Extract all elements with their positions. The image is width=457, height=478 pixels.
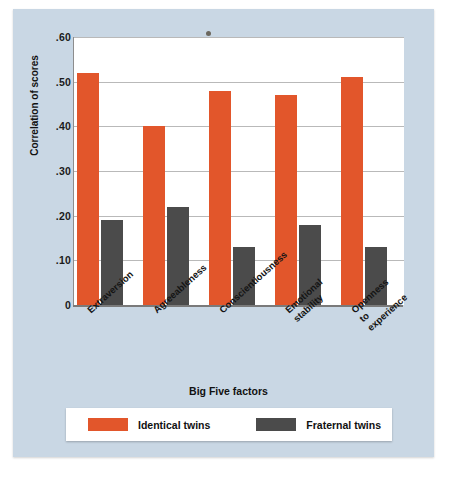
legend-swatch-icon xyxy=(256,418,296,431)
legend-label: Identical twins xyxy=(138,419,210,431)
legend-swatch-icon xyxy=(88,418,128,431)
bar xyxy=(209,91,231,305)
bars-layer xyxy=(73,37,403,305)
y-axis-tick-label: .60 xyxy=(37,31,71,43)
y-axis-tick-label: .20 xyxy=(37,210,71,222)
bar xyxy=(77,73,99,305)
bar xyxy=(143,126,165,305)
y-axis-tick-label: .40 xyxy=(37,120,71,132)
bar-group xyxy=(337,37,403,305)
y-axis-tick-label: 0 xyxy=(37,299,71,311)
scan-speck-icon xyxy=(206,31,211,36)
legend-entry[interactable]: Fraternal twins xyxy=(256,418,381,431)
bar-group xyxy=(139,37,205,305)
x-axis-title: Big Five factors xyxy=(0,385,457,397)
bar xyxy=(341,77,363,305)
x-axis-labels: ExtraversionAgreeablenessConscientiousne… xyxy=(73,307,413,397)
legend-label: Fraternal twins xyxy=(306,419,381,431)
chart-page: Correlation of scores .60.50.40.30.20.10… xyxy=(0,0,457,478)
y-axis-tick-label: .30 xyxy=(37,165,71,177)
legend-entry[interactable]: Identical twins xyxy=(88,418,210,431)
y-axis-tick-label: .10 xyxy=(37,254,71,266)
bar xyxy=(275,95,297,305)
bar-group xyxy=(205,37,271,305)
y-axis-tick-label: .50 xyxy=(37,76,71,88)
y-axis-ticks: .60.50.40.30.20.100 xyxy=(31,37,71,305)
bar-group xyxy=(73,37,139,305)
chart-legend: Identical twinsFraternal twins xyxy=(66,408,392,441)
